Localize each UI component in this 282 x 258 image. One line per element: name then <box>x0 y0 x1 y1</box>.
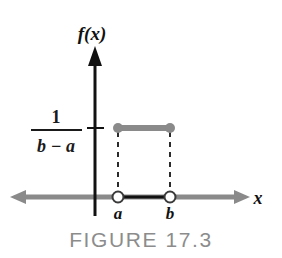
x-axis-right-arrowhead <box>234 190 250 204</box>
open-marker-b <box>165 192 176 203</box>
y-axis-arrowhead <box>88 46 102 66</box>
filled-marker-a <box>113 123 123 133</box>
filled-marker-b <box>165 123 175 133</box>
open-marker-a <box>113 192 124 203</box>
fraction-numerator: 1 <box>52 107 61 127</box>
x-axis-label: x <box>253 188 263 208</box>
y-tick-label-fraction: 1 b − a <box>31 107 82 156</box>
figure-container: f(x) x a b 1 b − a FIGURE 17.3 <box>0 0 282 258</box>
x-tick-label-b: b <box>166 204 175 223</box>
x-tick-label-a: a <box>114 204 123 223</box>
fraction-denominator: b − a <box>37 136 75 156</box>
y-axis <box>88 46 102 216</box>
figure-caption: FIGURE 17.3 <box>0 228 282 252</box>
y-axis-label: f(x) <box>78 23 106 45</box>
uniform-distribution-plot: f(x) x a b 1 b − a <box>0 0 282 258</box>
x-axis-left-arrowhead <box>10 190 26 204</box>
